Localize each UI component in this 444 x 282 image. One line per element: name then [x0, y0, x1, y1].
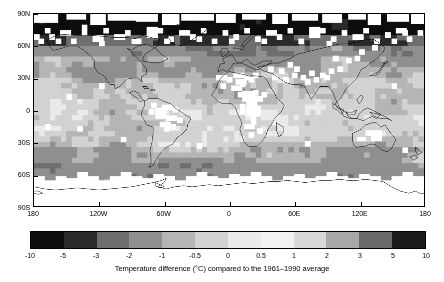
colorbar-band [129, 232, 162, 248]
y-tick-mark [34, 46, 38, 47]
colorbar-tick-label: 0 [226, 252, 230, 259]
x-tick-label: 180 [27, 210, 38, 217]
y-tick-label: 90N [17, 10, 30, 17]
colorbar-band [392, 232, 425, 248]
colorbar-caption: Temperature difference (°C) compared to … [0, 264, 444, 273]
colorbar [30, 231, 426, 249]
colorbar-tick-label: 2 [325, 252, 329, 259]
colorbar-band [294, 232, 327, 248]
colorbar-band [97, 232, 130, 248]
y-tick-label: 60N [17, 42, 30, 49]
x-tick-label: 120W [89, 210, 107, 217]
colorbar-band [162, 232, 195, 248]
y-tick-label: 30S [18, 139, 30, 146]
colorbar-tick-label: 1 [292, 252, 296, 259]
colorbar-tick-label: -5 [60, 252, 66, 259]
colorbar-band [228, 232, 261, 248]
colorbar-tick-label: 5 [391, 252, 395, 259]
colorbar-band [195, 232, 228, 248]
x-tick-mark [99, 202, 100, 206]
y-tick-mark [34, 79, 38, 80]
y-tick-label: 30N [17, 74, 30, 81]
colorbar-tick-label: 10 [422, 252, 430, 259]
colorbar-tick-label: -10 [25, 252, 35, 259]
colorbar-band [31, 232, 64, 248]
y-tick-label: 0 [26, 107, 30, 114]
y-tick-mark [34, 176, 38, 177]
x-tick-label: 180 [419, 210, 430, 217]
temperature-anomaly-heatmap [34, 14, 424, 206]
x-tick-mark [295, 202, 296, 206]
x-tick-mark [361, 202, 362, 206]
y-tick-mark [34, 111, 38, 112]
x-tick-label: 60E [288, 210, 300, 217]
colorbar-tick-label: -1 [159, 252, 165, 259]
colorbar-tick-label: -0.5 [189, 252, 201, 259]
colorbar-tick-label: 0.5 [256, 252, 265, 259]
colorbar-band [261, 232, 294, 248]
x-tick-label: 0 [227, 210, 231, 217]
map-plot-area [33, 13, 425, 207]
colorbar-bands [30, 231, 426, 249]
colorbar-band [359, 232, 392, 248]
y-tick-mark [34, 14, 38, 15]
x-tick-label: 120E [352, 210, 368, 217]
colorbar-tick-label: -3 [93, 252, 99, 259]
colorbar-tick-label: -2 [126, 252, 132, 259]
colorbar-band [64, 232, 97, 248]
x-tick-mark [230, 202, 231, 206]
colorbar-band [326, 232, 359, 248]
colorbar-tick-label: 3 [358, 252, 362, 259]
x-tick-mark [165, 202, 166, 206]
x-tick-label: 60W [157, 210, 171, 217]
y-tick-label: 60S [18, 171, 30, 178]
figure-root: 90N60N30N030S60S90S 180120W60W060E120E18… [0, 0, 444, 282]
y-tick-mark [34, 143, 38, 144]
